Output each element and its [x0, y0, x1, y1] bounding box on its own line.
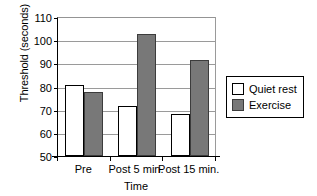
legend-label-quiet-rest: Quiet rest [249, 83, 297, 95]
bar-exercise-1[interactable] [137, 34, 156, 156]
x-tick-label: Pre [75, 163, 92, 175]
y-tick-mark [54, 111, 58, 112]
bar-quiet-rest-1[interactable] [118, 106, 137, 156]
x-tick-mark [215, 156, 216, 161]
y-tick-label: 50 [40, 152, 52, 163]
y-tick-label: 110 [34, 13, 52, 24]
y-tick-label: 60 [40, 128, 52, 139]
y-tick-mark [54, 64, 58, 65]
legend-swatch-quiet-rest [232, 83, 244, 95]
x-axis-title: Time [57, 180, 215, 192]
legend-item-quiet-rest[interactable]: Quiet rest [232, 81, 297, 97]
x-axis-line [52, 156, 220, 157]
plot-area: 1101009080706050 [57, 17, 215, 156]
legend-swatch-exercise [232, 99, 244, 111]
y-tick-label: 70 [40, 105, 52, 116]
bar-exercise-2[interactable] [190, 60, 209, 156]
legend-label-exercise: Exercise [249, 99, 291, 111]
y-tick-mark [54, 41, 58, 42]
y-tick-label: 100 [34, 36, 52, 47]
x-tick-label: Post 15 min. [158, 163, 219, 175]
x-tick-label: Post 5 min. [108, 163, 163, 175]
chart-legend: Quiet rest Exercise [226, 76, 304, 118]
y-tick-label: 90 [40, 59, 52, 70]
bar-quiet-rest-2[interactable] [171, 114, 190, 156]
y-tick-label: 80 [40, 82, 52, 93]
x-tick-mark [57, 156, 58, 161]
y-tick-mark [54, 134, 58, 135]
y-tick-mark [54, 18, 58, 19]
legend-item-exercise[interactable]: Exercise [232, 97, 297, 113]
x-tick-mark [162, 156, 163, 161]
bar-exercise-0[interactable] [84, 92, 103, 156]
y-axis-title: Threshold (seconds) [18, 0, 30, 133]
x-tick-mark [110, 156, 111, 161]
plot-right-border [215, 17, 216, 156]
bar-quiet-rest-0[interactable] [65, 85, 84, 156]
bar-chart-figure: Threshold (seconds) 1101009080706050 Tim… [0, 0, 317, 196]
y-tick-mark [54, 88, 58, 89]
